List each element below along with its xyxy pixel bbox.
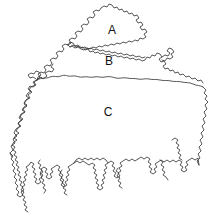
region-bc-divider xyxy=(37,75,203,87)
region-c-fringe-detail-2 xyxy=(60,170,67,195)
region-c-right-flank xyxy=(197,87,208,165)
region-label-a: A xyxy=(108,23,116,37)
region-c-fringe-detail-1 xyxy=(38,160,46,193)
region-map-svg: A B C xyxy=(0,0,216,218)
region-c-fringe-right xyxy=(138,157,199,174)
region-b-boundary xyxy=(37,42,203,83)
region-map-figure: A B C xyxy=(0,0,216,218)
region-b-right-notch xyxy=(162,48,174,61)
region-c-left-flank xyxy=(10,80,37,157)
region-c-fringe-center xyxy=(108,159,138,178)
region-c-fringe-detail-4 xyxy=(160,160,168,180)
region-c-fringe-left xyxy=(10,153,74,197)
region-c-fringe-detail-5 xyxy=(172,138,182,160)
region-label-c: C xyxy=(104,105,113,119)
region-label-b: B xyxy=(105,54,113,68)
region-c-fringe-center-left xyxy=(74,158,108,190)
